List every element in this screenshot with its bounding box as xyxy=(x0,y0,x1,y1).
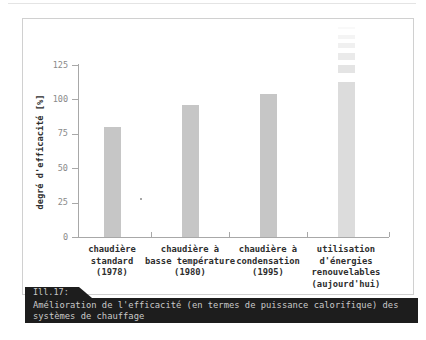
caption-line-1: Amélioration de l'efficacité (en termes … xyxy=(33,300,418,311)
x-category-line: renouvelables xyxy=(298,267,394,279)
y-tick xyxy=(72,237,78,238)
figure-number: Ill.17: xyxy=(33,287,69,297)
x-divider-tick xyxy=(389,232,390,237)
x-category-line: (aujourd'hui) xyxy=(298,279,394,291)
offscale-dash-1 xyxy=(338,65,355,73)
offscale-dash-4 xyxy=(338,35,355,39)
bar-3 xyxy=(260,94,277,237)
y-tick-label: 0 xyxy=(38,232,68,243)
x-divider-tick xyxy=(307,232,308,237)
y-tick xyxy=(72,203,78,204)
x-divider-tick xyxy=(151,232,152,237)
x-category-line: utilisation xyxy=(298,244,394,256)
bar-4 xyxy=(338,82,355,237)
x-category-label: utilisationd'énergiesrenouvelables(aujou… xyxy=(298,244,394,290)
y-tick-label: 100 xyxy=(38,94,68,105)
offscale-dash-5 xyxy=(338,27,355,30)
y-tick xyxy=(72,99,78,100)
y-tick xyxy=(72,65,78,66)
scan-speck xyxy=(140,198,142,200)
offscale-dash-2 xyxy=(338,53,355,60)
y-tick-label: 75 xyxy=(38,128,68,139)
y-tick-label: 25 xyxy=(38,197,68,208)
x-axis-line xyxy=(72,237,389,238)
offscale-dash-3 xyxy=(338,43,355,48)
y-tick-label: 50 xyxy=(38,163,68,174)
caption-bar: Amélioration de l'efficacité (en termes … xyxy=(25,298,418,323)
caption-line-2: systèmes de chauffage xyxy=(33,311,418,322)
x-category-line: d'énergies xyxy=(298,256,394,268)
bar-2 xyxy=(182,105,199,237)
bar-1 xyxy=(104,127,121,237)
figure-ill17: degré d'efficacité [%] 0255075100125chau… xyxy=(0,0,426,340)
x-divider-tick xyxy=(229,232,230,237)
y-tick-label: 125 xyxy=(38,60,68,71)
y-tick xyxy=(72,168,78,169)
y-tick xyxy=(72,134,78,135)
y-axis-line xyxy=(78,64,79,237)
